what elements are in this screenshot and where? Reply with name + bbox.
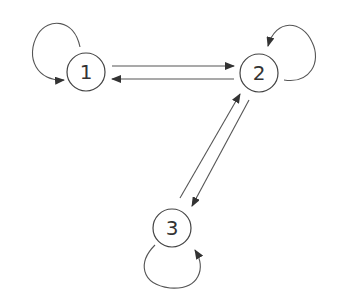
- node-1: 1: [67, 53, 105, 91]
- node-2-label: 2: [253, 61, 266, 85]
- edge-3-to-2: [180, 94, 240, 198]
- node-2: 2: [240, 54, 278, 92]
- edge-3-to-3: [144, 245, 200, 288]
- node-1-label: 1: [80, 60, 93, 84]
- state-diagram: 1 2 3: [0, 0, 340, 308]
- node-3: 3: [153, 209, 191, 247]
- edge-2-to-3: [192, 100, 249, 206]
- node-3-label: 3: [166, 216, 179, 240]
